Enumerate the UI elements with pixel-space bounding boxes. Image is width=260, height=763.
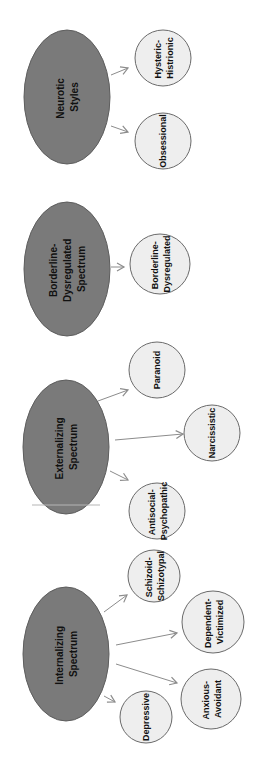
- node-hysteric-histrionic: [135, 30, 191, 86]
- group-neurotic: Neurotic Styles Hysteric- Histrionic Obs…: [24, 30, 191, 169]
- arrow-internalizing-to-depressive: [104, 696, 115, 702]
- personality-spectrum-diagram: Neurotic Styles Hysteric- Histrionic Obs…: [0, 0, 260, 763]
- arrow-externalizing-to-narcissistic: [115, 434, 183, 440]
- node-antisocial-psychopathic: [129, 483, 185, 539]
- arrow-neurotic-to-hysteric: [111, 68, 128, 75]
- label-depressive: Depressive: [141, 693, 151, 741]
- arrow-neurotic-to-obsessional: [111, 126, 128, 132]
- node-dependent-victimized: [182, 591, 244, 653]
- arrow-internalizing-to-schizoid: [104, 595, 127, 612]
- label-paranoid: Paranoid: [152, 351, 162, 390]
- arrow-externalizing-to-antisocial: [110, 471, 128, 480]
- node-externalizing-spectrum: [23, 380, 109, 514]
- arrow-internalizing-to-dependent: [116, 633, 177, 645]
- label-obsessional: Obsessional: [158, 114, 168, 168]
- node-internalizing-spectrum: [23, 587, 109, 721]
- group-internalizing: Internalizing Spectrum Schizoid- Schizot…: [23, 550, 244, 743]
- group-borderline: Borderline- Dysregulated Spectrum Border…: [24, 202, 190, 336]
- label-narcissistic: Narcissistic: [207, 408, 217, 459]
- node-anxious-avoidant: [181, 669, 241, 729]
- arrow-internalizing-to-anxious: [116, 664, 177, 683]
- group-externalizing: Externalizing Spectrum Paranoid Narcissi…: [23, 342, 240, 540]
- node-schizoid-schizotypal: [128, 550, 180, 602]
- arrow-externalizing-to-paranoid: [98, 390, 128, 401]
- node-neurotic-styles: [24, 30, 110, 164]
- node-borderline-dysregulated: [130, 234, 190, 294]
